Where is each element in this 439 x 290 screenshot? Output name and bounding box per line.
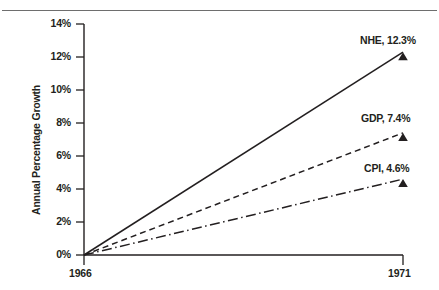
y-axis-ticks bbox=[76, 24, 84, 255]
series-marker-gdp bbox=[398, 133, 408, 141]
y-tick-label-4: 4% bbox=[56, 183, 71, 194]
chart-figure: 14% 12% 10% 8% 6% 4% 2% 0% 1966 1971 Ann… bbox=[0, 0, 439, 290]
x-tick-label-1966: 1966 bbox=[69, 268, 92, 279]
y-tick-label-10: 10% bbox=[51, 84, 71, 95]
x-tick-label-1971: 1971 bbox=[388, 268, 411, 279]
series-line-gdp bbox=[84, 133, 403, 255]
y-tick-label-12: 12% bbox=[51, 51, 71, 62]
series-marker-nhe bbox=[398, 52, 408, 60]
y-tick-label-2: 2% bbox=[56, 216, 71, 227]
series-label-nhe: NHE, 12.3% bbox=[360, 35, 416, 46]
series-label-gdp: GDP, 7.4% bbox=[361, 113, 410, 124]
y-tick-label-6: 6% bbox=[56, 150, 71, 161]
y-tick-label-0: 0% bbox=[56, 249, 71, 260]
y-tick-label-8: 8% bbox=[56, 117, 71, 128]
series-line-nhe bbox=[84, 52, 403, 255]
series-label-cpi: CPI, 4.6% bbox=[364, 163, 409, 174]
series-line-cpi bbox=[84, 179, 403, 255]
y-tick-label-14: 14% bbox=[51, 18, 71, 29]
x-axis-ticks bbox=[84, 255, 403, 265]
y-axis-title: Annual Percentage Growth bbox=[30, 85, 42, 215]
